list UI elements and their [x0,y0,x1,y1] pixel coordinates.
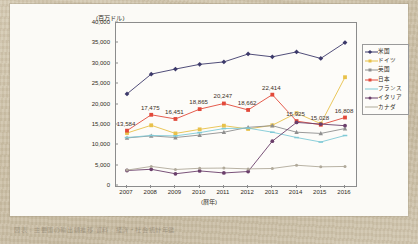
x-tick-mark [223,185,224,188]
legend-item-3[interactable]: 日本 [365,75,407,84]
data-label: 16,808 [335,107,354,114]
y-tick-label: 20,000 [68,101,110,107]
y-tick-label: 15,000 [68,121,110,127]
legend-label: ドイツ [378,58,396,64]
x-tick-label: 2008 [144,189,157,195]
y-tick-label: 5,000 [68,162,110,168]
figure-caption: 図表 : 主要国の輸出額推移 資料 : 経済・社会統計年鑑 [14,225,344,235]
legend-label: 英国 [378,67,390,73]
y-tick-mark [115,62,118,63]
x-axis-title: (暦年) [10,197,408,206]
y-tick-mark [115,185,118,186]
legend-label: イタリア [378,95,402,101]
x-tick-label: 2012 [240,189,253,195]
y-tick-label: 0 [68,182,110,188]
y-tick-mark [115,164,118,165]
x-tick-mark [320,185,321,188]
y-tick-mark [115,83,118,84]
legend-label: 米国 [378,49,390,55]
x-tick-label: 2009 [168,189,181,195]
y-tick-label: 40,000 [68,19,110,25]
x-tick-mark [247,185,248,188]
legend-item-5[interactable]: イタリア [365,93,407,102]
y-tick-label: 10,000 [68,141,110,147]
x-tick-mark [199,185,200,188]
legend-item-0[interactable]: 米国 [365,47,407,56]
legend-swatch-icon [365,66,378,74]
y-tick-mark [115,144,118,145]
figure-plate: (百万ドル) 05,00010,00015,00020,00025,00030,… [10,4,408,216]
data-label: 17,475 [141,104,160,111]
data-label: 20,247 [214,92,233,99]
legend-swatch-icon [365,57,378,65]
x-tick-mark [344,185,345,188]
y-tick-mark [115,22,118,23]
x-tick-label: 2015 [313,189,326,195]
x-tick-mark [271,185,272,188]
legend-item-1[interactable]: ドイツ [365,56,407,65]
x-tick-label: 2014 [289,189,302,195]
data-label: 15,028 [310,114,329,121]
y-tick-mark [115,103,118,104]
x-tick-mark [150,185,151,188]
x-tick-mark [174,185,175,188]
x-tick-label: 2011 [216,189,229,195]
y-tick-label: 35,000 [68,39,110,45]
legend-item-2[interactable]: 英国 [365,66,407,75]
legend-item-4[interactable]: フランス [365,84,407,93]
x-tick-label: 2007 [119,189,132,195]
x-tick-mark [126,185,127,188]
legend-swatch-icon [365,48,378,56]
line-chart: (百万ドル) 05,00010,00015,00020,00025,00030,… [10,4,408,216]
x-tick-label: 2013 [265,189,278,195]
data-label: 13,584 [117,120,136,127]
x-tick-mark [296,185,297,188]
data-label: 22,414 [262,84,281,91]
chart-legend: 米国ドイツ英国日本フランスイタリアカナダ [362,44,409,115]
legend-swatch-icon [365,85,378,93]
legend-item-6[interactable]: カナダ [365,103,407,112]
data-label: 15,925 [286,110,305,117]
legend-label: カナダ [378,105,396,111]
data-label: 16,451 [165,108,184,115]
data-label: 18,865 [189,98,208,105]
x-tick-label: 2016 [337,189,350,195]
y-tick-mark [115,42,118,43]
legend-label: 日本 [378,77,390,83]
legend-swatch-icon [365,76,378,84]
data-label: 18,662 [238,99,257,106]
legend-swatch-icon [365,94,378,102]
y-tick-label: 30,000 [68,60,110,66]
y-tick-label: 25,000 [68,80,110,86]
x-tick-label: 2010 [192,189,205,195]
legend-label: フランス [378,86,402,92]
legend-swatch-icon [365,103,378,111]
